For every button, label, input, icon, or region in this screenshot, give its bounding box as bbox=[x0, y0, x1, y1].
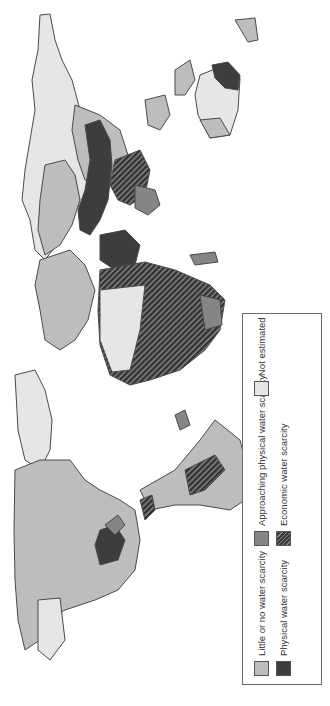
legend-item-little-or-no: Little or no water scarcity bbox=[251, 551, 271, 676]
region-alaska bbox=[38, 598, 65, 660]
region-greenland bbox=[15, 370, 52, 470]
legend-item-not-estimated: Not estimated bbox=[251, 317, 271, 396]
swatch-mid-gray bbox=[254, 531, 269, 546]
legend-item-physical: Physical water scarcity bbox=[273, 560, 293, 676]
legend-item-approaching: Approaching physical water scarcity bbox=[251, 375, 271, 546]
swatch-hatched bbox=[276, 531, 291, 546]
swatch-pale-gray bbox=[254, 381, 269, 396]
region-europe bbox=[35, 250, 95, 350]
swatch-light-gray bbox=[254, 661, 269, 676]
region-north-america bbox=[14, 460, 140, 650]
legend: Little or no water scarcity Approaching … bbox=[242, 313, 322, 685]
region-central-asia bbox=[38, 160, 80, 255]
region-southeast-asia bbox=[135, 185, 160, 215]
swatch-dark-gray bbox=[276, 661, 291, 676]
legend-item-economic: Economic water scarcity bbox=[273, 424, 293, 546]
